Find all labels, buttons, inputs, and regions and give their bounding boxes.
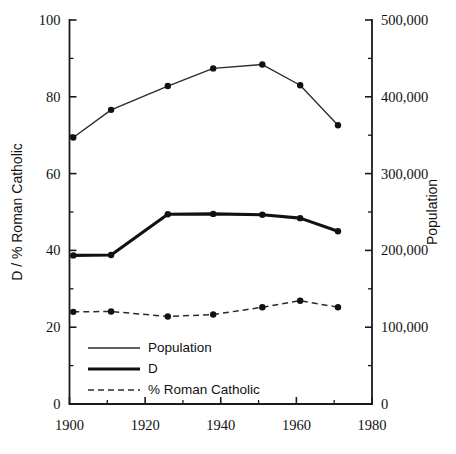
y-tick-label: 80: [46, 89, 61, 105]
data-point-marker: [165, 211, 171, 217]
x-tick-label: 1920: [131, 417, 160, 433]
data-point-marker: [297, 82, 303, 88]
data-point-marker: [259, 304, 265, 310]
y2-tick-label: 300,000: [381, 166, 428, 182]
line-chart: 020406080100 0100,000200,000300,000400,0…: [0, 0, 456, 454]
y2-tick-label: 200,000: [381, 242, 428, 258]
y-tick-label: 0: [53, 396, 60, 412]
data-point-marker: [165, 83, 171, 89]
data-point-marker: [70, 134, 76, 140]
x-tick-label: 1940: [206, 417, 235, 433]
data-point-marker: [335, 228, 341, 234]
y-tick-label: 60: [46, 166, 61, 182]
data-point-marker: [70, 252, 76, 258]
y2-tick-label: 100,000: [381, 319, 428, 335]
data-point-marker: [70, 309, 76, 315]
data-point-marker: [297, 215, 303, 221]
data-point-marker: [259, 211, 265, 217]
data-point-marker: [108, 252, 114, 258]
y-axis-label: D / % Roman Catholic: [9, 143, 25, 281]
legend-label: D: [148, 361, 158, 376]
x-tick-label: 1960: [282, 417, 311, 433]
data-point-marker: [335, 122, 341, 128]
y-tick-label: 40: [46, 242, 61, 258]
y2-tick-label: 400,000: [381, 89, 428, 105]
data-point-marker: [165, 313, 171, 319]
data-point-marker: [108, 107, 114, 113]
legend-label: Population: [148, 340, 212, 355]
y2-tick-label: 500,000: [381, 12, 428, 28]
y-tick-label: 100: [39, 12, 61, 28]
legend-label: % Roman Catholic: [148, 382, 260, 397]
data-point-marker: [210, 311, 216, 317]
data-point-marker: [259, 61, 265, 67]
data-point-marker: [210, 211, 216, 217]
y2-tick-label: 0: [381, 396, 388, 412]
y2-axis-label: Population: [424, 179, 440, 245]
y-tick-label: 20: [46, 319, 61, 335]
chart-figure: 020406080100 0100,000200,000300,000400,0…: [0, 0, 456, 454]
data-point-marker: [210, 65, 216, 71]
x-tick-label: 1980: [358, 417, 387, 433]
x-tick-label: 1900: [55, 417, 84, 433]
data-point-marker: [108, 308, 114, 314]
data-point-marker: [297, 298, 303, 304]
data-point-marker: [335, 304, 341, 310]
